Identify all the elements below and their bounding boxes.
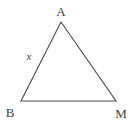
vertex-label-a: A [56, 5, 65, 18]
side-label-ab: x [27, 51, 32, 62]
vertex-label-m: M [115, 107, 127, 120]
geometry-figure: A B M x [0, 0, 136, 123]
triangle-outline [21, 22, 116, 101]
vertex-label-b: B [6, 106, 15, 119]
